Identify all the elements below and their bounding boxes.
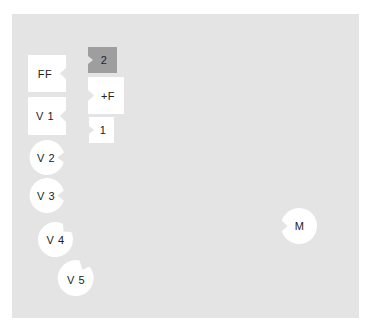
- piece-ff[interactable]: FF: [28, 55, 66, 92]
- piece-label: +F: [88, 77, 124, 114]
- piece-m[interactable]: M: [280, 208, 316, 244]
- piece-label: M: [280, 208, 316, 244]
- piece-1[interactable]: 1: [89, 117, 114, 143]
- piece-plus-f[interactable]: +F: [88, 77, 124, 114]
- piece-v5[interactable]: V 5: [58, 260, 94, 296]
- puzzle-canvas: FF V 1 2 +F 1 V 2: [0, 0, 372, 331]
- piece-label: 1: [89, 117, 114, 143]
- piece-v3[interactable]: V 3: [30, 178, 65, 213]
- piece-v1[interactable]: V 1: [28, 97, 66, 135]
- piece-v2[interactable]: V 2: [30, 140, 65, 175]
- piece-label: V 2: [30, 140, 65, 175]
- piece-label: V 4: [38, 222, 73, 257]
- piece-label: V 5: [58, 260, 94, 296]
- piece-v4[interactable]: V 4: [38, 222, 73, 257]
- piece-2[interactable]: 2: [88, 47, 117, 73]
- piece-label: FF: [28, 55, 66, 92]
- piece-label: V 1: [28, 97, 66, 135]
- piece-label: 2: [88, 47, 117, 73]
- piece-label: V 3: [30, 178, 65, 213]
